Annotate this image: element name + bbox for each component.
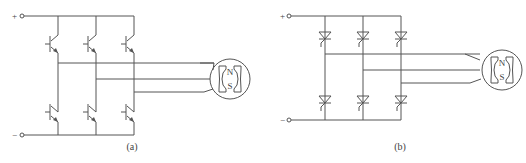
motor-a-south-label: S <box>227 81 232 91</box>
negative-terminal-label: − <box>12 130 17 140</box>
circuit-figure: + − <box>0 0 526 163</box>
negative-terminal <box>20 133 24 137</box>
thyristor-leg-2 <box>357 16 480 120</box>
thyristor-leg-3 <box>395 16 470 120</box>
panel-a: + − <box>12 11 250 153</box>
transistor-leg-2 <box>83 16 210 135</box>
motor-b: N S <box>482 50 522 90</box>
caption-a: (a) <box>126 141 137 153</box>
negative-terminal-b <box>287 118 291 122</box>
positive-terminal <box>20 14 24 18</box>
transistor-leg-1 <box>45 16 214 135</box>
positive-terminal-label: + <box>12 11 17 21</box>
panel-b: + − <box>280 11 522 153</box>
motor-b-south-label: S <box>499 72 504 82</box>
positive-terminal-b <box>287 14 291 18</box>
motor-a: N S <box>210 59 250 99</box>
caption-b: (b) <box>394 141 406 153</box>
transistor-leg-3 <box>121 16 204 135</box>
motor-b-north-label: N <box>499 58 506 68</box>
motor-a-north-label: N <box>227 67 234 77</box>
positive-terminal-label-b: + <box>280 11 285 21</box>
negative-terminal-label-b: − <box>280 115 285 125</box>
